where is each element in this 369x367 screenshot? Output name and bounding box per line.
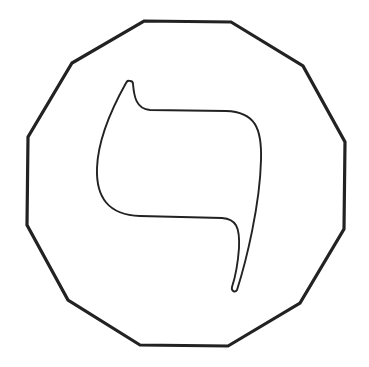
figure-canvas: Kaf [0, 0, 369, 367]
kaf-letter-icon [97, 81, 261, 292]
kaf-emblem-graphic [0, 0, 369, 367]
dodecagon-frame [27, 21, 345, 346]
